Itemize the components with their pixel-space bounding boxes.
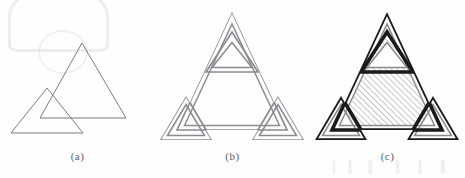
large-triangle-b <box>177 12 287 130</box>
caption-a: (a) <box>0 150 155 162</box>
caption-b: (b) <box>155 150 310 162</box>
left-small-triangle-b <box>160 96 212 140</box>
figure-panel-a: (a) <box>0 0 155 178</box>
diagram-b <box>155 0 310 150</box>
caption-c: (c) <box>310 150 465 162</box>
large-triangle-inner-b <box>185 24 280 126</box>
figure-panel-b: (b) <box>155 0 310 178</box>
figure-sheet: (a) <box>0 0 465 178</box>
triangle-group-a <box>11 43 126 133</box>
diagram-c <box>310 0 465 150</box>
small-triangle-a <box>11 88 83 133</box>
right-small-triangle-b <box>252 96 304 140</box>
union-outline-outer-b <box>160 12 304 140</box>
union-outline-inner-b <box>168 24 297 136</box>
figure-panel-c: (c) <box>310 0 465 178</box>
large-triangle-a <box>40 43 126 118</box>
diagram-a <box>0 0 155 150</box>
